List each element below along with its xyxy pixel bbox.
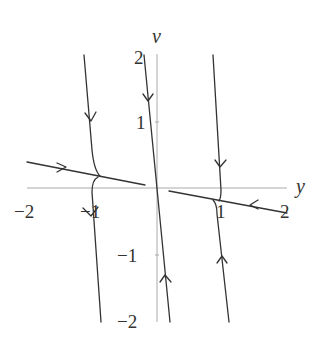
v-tick-label-2: 2: [134, 47, 144, 68]
v-tick-label-neg2: −2: [117, 311, 137, 332]
arrow-down-icon: [85, 112, 96, 121]
h-tick-label-neg1: −1: [80, 201, 100, 222]
left-slow-line: [27, 162, 145, 185]
right-slow-line: [169, 191, 287, 213]
h-tick-label-neg2: −2: [14, 201, 34, 222]
vertical-axis-label: v: [152, 25, 161, 47]
lower-left-trajectory: [92, 177, 101, 322]
upper-right-trajectory: [213, 55, 221, 201]
arrow-down-icon: [215, 160, 226, 167]
phase-portrait: v y 2 1 −1 −2 −2 −1 1 2: [0, 0, 327, 354]
v-tick-label-neg1: −1: [117, 245, 137, 266]
horizontal-axis-label: y: [294, 175, 305, 198]
v-tick-label-1: 1: [136, 112, 146, 133]
